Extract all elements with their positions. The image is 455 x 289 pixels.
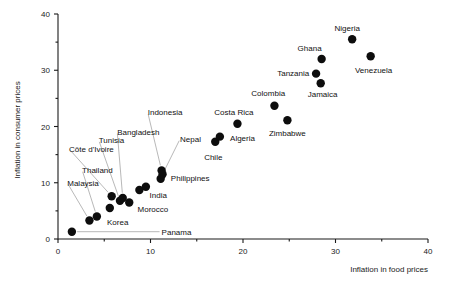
y-tick-label: 20 (41, 123, 50, 132)
point-label-nigeria: Nigeria (335, 24, 361, 33)
data-point-dot (233, 119, 241, 127)
x-tick-label: 20 (239, 247, 248, 256)
data-point-dot (366, 52, 374, 60)
point-label-costa-rica: Costa Rica (214, 108, 254, 117)
y-tick-label: 10 (41, 179, 50, 188)
point-label-tunisia: Tunisia (99, 136, 125, 145)
y-tick-label: 40 (41, 10, 50, 19)
point-label-colombia: Colombia (251, 89, 285, 98)
scatter-chart: 010203040 010203040 PanamaMalaysiaThaila… (0, 0, 455, 289)
point-label-zimbabwe: Zimbabwe (269, 129, 306, 138)
data-point-dot (312, 69, 320, 77)
data-point-dot (270, 101, 278, 109)
point-label-tanzania: Tanzania (277, 69, 310, 78)
y-axis-ticks: 010203040 (41, 10, 58, 244)
label-leader-line (83, 172, 96, 212)
label-leader-line (68, 184, 87, 215)
point-label-panama: Panama (162, 228, 192, 237)
point-label-ghana: Ghana (298, 44, 323, 53)
x-axis-ticks: 010203040 (56, 239, 433, 256)
point-label-algeria: Algeria (230, 134, 255, 143)
point-label-jamaica: Jamaica (308, 90, 338, 99)
x-tick-label: 0 (56, 247, 61, 256)
data-point-dot (93, 212, 101, 220)
point-label-korea: Korea (107, 218, 129, 227)
point-label-morocco: Morocco (138, 205, 169, 214)
data-point-dot (68, 227, 76, 235)
data-point-dot (158, 170, 166, 178)
point-label-thailand: Thailand (82, 166, 113, 175)
data-point-dot (348, 35, 356, 43)
point-labels: PanamaMalaysiaThailandKoreaCôte d'Ivoire… (67, 24, 393, 237)
point-label-venezuela: Venezuela (355, 66, 393, 75)
point-label-philippines: Philippines (171, 174, 210, 183)
data-point-dot (125, 198, 133, 206)
point-label-c-te-d-ivoire: Côte d'Ivoire (69, 145, 114, 154)
point-label-bangladesh: Bangladesh (117, 128, 159, 137)
data-point-dot (106, 204, 114, 212)
data-point-dot (317, 79, 325, 87)
x-tick-label: 30 (331, 247, 340, 256)
data-point-dot (317, 55, 325, 63)
point-label-malaysia: Malaysia (67, 179, 99, 188)
y-tick-label: 0 (46, 235, 51, 244)
label-leader-line (165, 141, 179, 170)
x-tick-label: 10 (146, 247, 155, 256)
y-axis-label: Inflation in consumer prices (13, 81, 22, 178)
data-point-dot (85, 216, 93, 224)
point-label-india: India (150, 191, 168, 200)
chart-svg: 010203040 010203040 PanamaMalaysiaThaila… (0, 0, 455, 289)
data-point-dot (283, 116, 291, 124)
x-axis-label: Inflation in food prices (350, 265, 428, 274)
data-point-dot (216, 132, 224, 140)
point-label-chile: Chile (204, 153, 223, 162)
point-label-indonesia: Indonesia (148, 108, 183, 117)
label-leader-line (148, 114, 160, 165)
x-tick-label: 40 (424, 247, 433, 256)
y-tick-label: 30 (41, 66, 50, 75)
point-label-nepal: Nepal (180, 135, 201, 144)
axes-group (58, 14, 428, 240)
data-point-dot (107, 192, 115, 200)
